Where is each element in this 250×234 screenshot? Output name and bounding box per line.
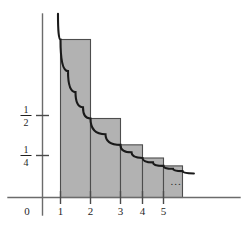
figure-container: 1 2 1 4 0 1 2 3 4 5 ... xyxy=(0,0,250,234)
x-tick-label-3: 3 xyxy=(118,205,124,217)
y-tick-one-quarter-numerator: 1 xyxy=(24,144,29,155)
harmonic-series-figure: 1 2 1 4 0 1 2 3 4 5 ... xyxy=(0,0,250,234)
x-tick-label-0: 0 xyxy=(24,205,30,217)
x-tick-label-4: 4 xyxy=(140,205,146,217)
y-tick-label-one-quarter: 1 4 xyxy=(21,144,32,168)
bar-group xyxy=(61,40,183,198)
ellipsis-annotation: ... xyxy=(170,175,181,187)
bar-1 xyxy=(61,40,91,198)
x-tick-label-5: 5 xyxy=(161,205,167,217)
y-tick-one-half-numerator: 1 xyxy=(24,104,29,115)
x-tick-label-group: 0 1 2 3 4 5 xyxy=(24,205,167,217)
y-tick-label-one-half: 1 2 xyxy=(21,104,32,128)
x-tick-label-2: 2 xyxy=(88,205,94,217)
y-tick-one-quarter-denominator: 4 xyxy=(24,157,29,168)
y-tick-one-half-denominator: 2 xyxy=(24,117,29,128)
x-tick-label-1: 1 xyxy=(58,205,64,217)
